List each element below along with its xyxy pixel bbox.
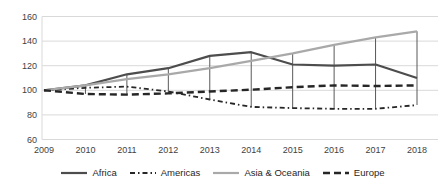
x-axis-tick-label: 2014 <box>241 145 261 155</box>
legend-line-sample-icon <box>213 169 239 177</box>
x-axis-tick-label: 2010 <box>75 145 95 155</box>
x-axis-tick-label: 2017 <box>366 145 386 155</box>
legend-line-sample-icon <box>323 169 349 177</box>
y-axis-tick-label: 160 <box>22 12 37 22</box>
legend-label: Americas <box>161 167 201 179</box>
y-axis-tick-label: 140 <box>22 36 37 46</box>
series-line-africa <box>44 52 417 90</box>
y-axis-tick-label: 120 <box>22 61 37 71</box>
legend-item-africa: Africa <box>61 167 116 179</box>
chart-plot-area: 6080100120140160200920102011201220132014… <box>0 0 446 162</box>
legend-line-sample-icon <box>130 169 156 177</box>
legend-label: Africa <box>92 167 116 179</box>
y-axis-tick-label: 60 <box>27 135 37 145</box>
x-axis-tick-label: 2012 <box>158 145 178 155</box>
line-chart: 6080100120140160200920102011201220132014… <box>0 0 446 193</box>
y-axis-tick-label: 100 <box>22 85 37 95</box>
x-axis-tick-label: 2011 <box>117 145 136 155</box>
x-axis-tick-label: 2015 <box>283 145 303 155</box>
x-axis-tick-label: 2013 <box>200 145 220 155</box>
legend-item-asia-oceania: Asia & Oceania <box>213 167 309 179</box>
legend-label: Asia & Oceania <box>244 167 309 179</box>
x-axis-tick-label: 2016 <box>324 145 344 155</box>
x-axis-tick-label: 2018 <box>407 145 427 155</box>
y-axis-tick-label: 80 <box>27 110 37 120</box>
legend-label: Europe <box>354 167 385 179</box>
x-axis-tick-label: 2009 <box>34 145 54 155</box>
legend-item-americas: Americas <box>130 167 201 179</box>
legend-line-sample-icon <box>61 169 87 177</box>
chart-legend: AfricaAmericasAsia & OceaniaEurope <box>0 167 446 179</box>
legend-item-europe: Europe <box>323 167 385 179</box>
